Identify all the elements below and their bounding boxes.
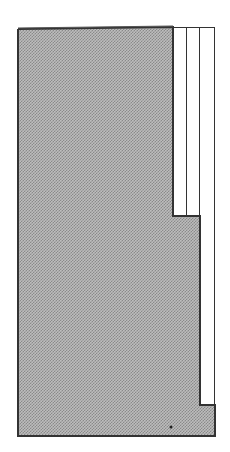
dot-mark [170,426,173,429]
panel-outline [0,0,230,452]
figure [0,0,230,452]
